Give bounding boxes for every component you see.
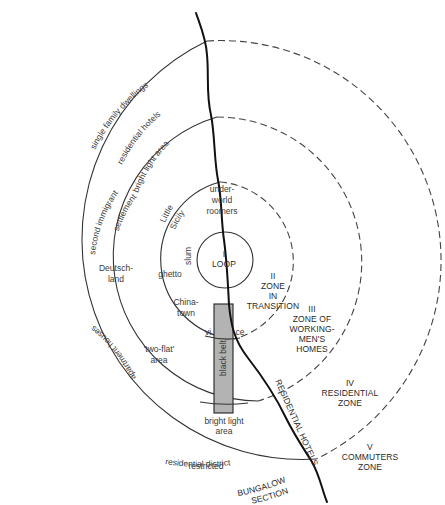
label-ce: ce [236,327,245,337]
zone-4-line-1: RESIDENTIAL [322,388,379,398]
label-sicily: Sicily [168,207,187,230]
ring-3-dashed [217,117,362,401]
label-bright-light-bottom-1: bright light [204,416,244,426]
zone-2-numeral: II [271,271,276,281]
label-deutschland-1: Deutsch- [99,263,133,273]
concentric-zone-diagram: single family dwellings residential hote… [0,0,445,505]
label-underworld-2: world [211,195,233,205]
zone-5-line-1: COMMUTERS [342,452,399,462]
zone-3-line-2: WORKING- [289,324,334,334]
zone-2-line-3: TRANSITION [247,301,299,311]
zone-3-numeral: III [308,304,315,314]
label-ghetto: ghetto [158,269,182,279]
label-chinatown-1: China- [173,297,198,307]
zone-1-name: LOOP [212,259,236,269]
zone-3-line-1: ZONE OF [293,314,331,324]
zone-4-line-2: ZONE [338,398,362,408]
zone-3-line-4: HOMES [296,344,328,354]
zone-1-numeral: I [223,249,225,259]
label-deutschland-2: land [108,274,124,284]
zone-2-line-2: IN [269,291,278,301]
zone-4-numeral: IV [346,378,354,388]
zone-3-line-3: MEN'S [299,334,326,344]
label-bright-light-bottom-2: area [215,426,232,436]
label-two-flat-area: area [150,355,167,365]
label-bright-light-area-top: bright light area [130,138,171,194]
label-residential-hotels-river: RESIDENTIAL HOTELS [273,378,320,468]
label-vi: vi [205,327,211,337]
label-restricted: restricted [189,461,224,471]
zone-2-line-1: ZONE [261,281,285,291]
label-black-belt: black belt [218,339,228,376]
zone-5-line-2: ZONE [358,462,382,472]
label-two-flat: 'two-flat' [144,344,175,354]
label-underworld-3: roomers [206,206,237,216]
label-apartment-houses: apartment houses [89,324,138,382]
label-underworld-1: under- [210,184,235,194]
zone-5-numeral: V [367,442,373,452]
label-slum: slum [183,247,193,265]
label-chinatown-2: town [177,308,195,318]
